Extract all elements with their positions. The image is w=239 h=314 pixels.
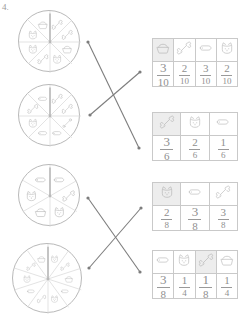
dog-bowl-icon	[155, 40, 171, 60]
line-3-end-dot	[138, 270, 141, 273]
table-icon-cell-cat-face	[217, 39, 237, 61]
fraction-cell: 310	[153, 62, 174, 86]
bone-icon	[198, 252, 214, 272]
table-icon-cell-bone	[210, 183, 237, 205]
fraction-numerator: 1	[224, 275, 230, 287]
fraction-numerator: 2	[224, 63, 230, 75]
fraction-cell: 210	[174, 62, 195, 86]
fraction-numerator: 1	[182, 275, 188, 287]
fraction-denominator: 8	[192, 220, 198, 232]
fraction-cell: 14	[217, 274, 237, 298]
bone-icon	[159, 114, 175, 134]
cat-face-icon	[159, 184, 175, 204]
table-fraction-row: 38141814	[153, 274, 237, 298]
fraction-table-1: 310210310210	[152, 38, 238, 87]
table-icon-cell-dog-treat	[153, 251, 174, 273]
table-icon-row	[153, 113, 237, 136]
fraction-numerator: 3	[203, 63, 209, 75]
table-icon-cell-dog-treat	[196, 39, 217, 61]
cat-face-icon	[219, 40, 235, 60]
table-fraction-row: 362616	[153, 136, 237, 160]
fraction-cell: 38	[210, 206, 237, 230]
dog-treat-icon	[187, 184, 203, 204]
fraction: 38	[157, 273, 170, 300]
fraction-denominator: 10	[158, 76, 169, 88]
fraction-cell: 38	[181, 206, 209, 230]
fraction-numerator: 2	[192, 137, 198, 149]
table-icon-cell-dog-treat	[210, 113, 237, 135]
line-1-start-dot	[86, 40, 89, 43]
fraction-denominator: 8	[164, 220, 169, 230]
fraction-table-3: 283838	[152, 182, 238, 231]
line-1-end-dot	[137, 146, 140, 149]
cat-face-icon	[187, 114, 203, 134]
fraction-numerator: 3	[160, 273, 167, 287]
fraction-denominator: 10	[222, 76, 231, 86]
fraction-denominator: 8	[203, 288, 209, 300]
line-2-end-dot	[138, 70, 141, 73]
line-2[interactable]	[90, 72, 140, 115]
table-icon-cell-bone	[196, 251, 217, 273]
fraction-numerator: 3	[160, 61, 167, 75]
fraction-denominator: 8	[221, 220, 226, 230]
table-icon-cell-dog-treat	[181, 183, 209, 205]
fraction-cell: 36	[153, 136, 181, 160]
fraction-denominator: 4	[182, 288, 187, 298]
fraction: 210	[221, 63, 232, 86]
table-icon-cell-dog-bowl	[153, 39, 174, 61]
bone-icon	[215, 184, 231, 204]
fraction: 36	[160, 135, 173, 162]
line-4-end-dot	[139, 206, 142, 209]
fraction-table-2: 362616	[152, 112, 238, 161]
fraction-denominator: 6	[164, 150, 170, 162]
fraction-denominator: 6	[221, 150, 226, 160]
fraction-numerator: 1	[221, 137, 227, 149]
fraction-denominator: 4	[225, 288, 230, 298]
table-icon-row	[153, 39, 237, 62]
dog-treat-icon	[198, 40, 214, 60]
fraction: 26	[189, 137, 200, 160]
table-fraction-row: 310210310210	[153, 62, 237, 86]
fraction: 310	[200, 63, 211, 86]
fraction: 210	[179, 63, 190, 86]
line-4[interactable]	[89, 208, 141, 268]
bone-icon	[176, 40, 192, 60]
fraction-numerator: 3	[221, 207, 227, 219]
fraction-cell: 28	[153, 206, 181, 230]
table-icon-cell-dog-bowl	[217, 251, 237, 273]
fraction: 28	[161, 207, 172, 230]
table-icon-cell-cat-face	[174, 251, 195, 273]
fraction: 14	[179, 275, 190, 298]
line-3-start-dot	[86, 196, 89, 199]
fraction-denominator: 6	[193, 150, 198, 160]
table-icon-cell-bone	[174, 39, 195, 61]
fraction: 14	[221, 275, 232, 298]
line-4-start-dot	[87, 266, 90, 269]
dog-bowl-icon	[219, 252, 235, 272]
dog-treat-icon	[155, 252, 171, 272]
table-icon-row	[153, 251, 237, 274]
fraction-denominator: 10	[180, 76, 189, 86]
fraction-numerator: 2	[182, 63, 188, 75]
table-fraction-row: 283838	[153, 206, 237, 230]
fraction: 310	[157, 61, 170, 88]
fraction-table-4: 38141814	[152, 250, 238, 299]
fraction-numerator: 3	[163, 135, 170, 149]
fraction: 38	[218, 207, 229, 230]
fraction: 16	[218, 137, 229, 160]
fraction-cell: 310	[196, 62, 217, 86]
fraction-denominator: 10	[201, 76, 210, 86]
table-icon-row	[153, 183, 237, 206]
fraction-numerator: 3	[192, 205, 199, 219]
cat-face-icon	[176, 252, 192, 272]
fraction-cell: 38	[153, 274, 174, 298]
table-icon-cell-bone	[153, 113, 181, 135]
fraction-numerator: 2	[164, 207, 170, 219]
fraction-numerator: 1	[202, 273, 209, 287]
fraction-denominator: 8	[160, 288, 166, 300]
fraction-cell: 14	[174, 274, 195, 298]
table-icon-cell-cat-face	[181, 113, 209, 135]
line-2-start-dot	[88, 113, 91, 116]
fraction-cell: 210	[217, 62, 237, 86]
